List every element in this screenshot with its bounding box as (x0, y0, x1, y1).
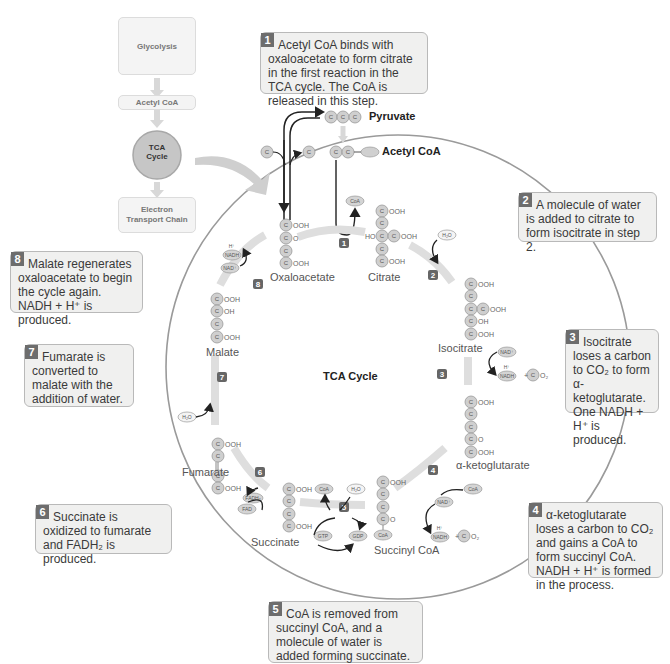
svg-text:C: C (381, 504, 386, 510)
svg-text:GDP: GDP (353, 533, 365, 539)
svg-text:OOH: OOH (389, 208, 405, 215)
svg-text:C: C (531, 372, 536, 378)
svg-text:C: C (287, 486, 292, 492)
svg-text:1: 1 (342, 239, 347, 248)
svg-text:C: C (216, 453, 221, 459)
svg-text:OH: OH (478, 318, 489, 325)
step-badge-3: 3 (566, 330, 579, 344)
svg-text:C: C (329, 114, 334, 120)
callout-step-6: 6Succinate is oxidized to fumarate and F… (35, 504, 172, 554)
svg-text:OOH: OOH (293, 222, 309, 229)
svg-text:H₂O: H₂O (442, 232, 452, 238)
svg-text:C: C (307, 149, 312, 155)
svg-text:C: C (284, 222, 289, 228)
svg-text:C: C (469, 293, 474, 299)
svg-text:C: C (469, 306, 474, 312)
step-badge-8: 8 (11, 252, 24, 266)
svg-text:2: 2 (431, 271, 436, 280)
svg-text:4: 4 (431, 466, 436, 475)
svg-text:C: C (381, 479, 386, 485)
svg-text:7: 7 (220, 373, 225, 382)
electron-transport-chain-box: Electron Transport Chain (118, 197, 196, 233)
svg-text:H⁺: H⁺ (504, 364, 511, 370)
svg-text:O: O (293, 235, 299, 242)
svg-text:C: C (284, 260, 289, 266)
svg-text:OOH: OOH (478, 331, 494, 338)
svg-text:HO: HO (365, 233, 376, 240)
svg-text:C: C (469, 331, 474, 337)
step-badge-1: 1 (261, 33, 274, 47)
svg-text:C: C (380, 233, 385, 239)
svg-text:C: C (215, 308, 220, 314)
molecule-isocitrate: Isocitrate (438, 342, 483, 354)
svg-text:OOH: OOH (225, 485, 241, 492)
svg-text:CoA: CoA (468, 486, 478, 492)
svg-text:OH: OH (224, 308, 235, 315)
molecule-alpha-ketoglutarate: α-ketoglutarate (456, 459, 530, 471)
svg-text:C: C (216, 485, 221, 491)
svg-text:H₂O: H₂O (182, 414, 192, 420)
svg-text:C: C (287, 523, 292, 529)
svg-text:C: C (346, 149, 351, 155)
molecule-oxaloacetate: Oxaloacetate (270, 271, 335, 283)
molecule-succinate: Succinate (251, 536, 299, 548)
svg-text:C: C (469, 399, 474, 405)
svg-text:C: C (216, 441, 221, 447)
svg-text:C: C (284, 235, 289, 241)
svg-text:C: C (469, 411, 474, 417)
svg-text:C: C (469, 449, 474, 455)
svg-text:OOH: OOH (224, 334, 240, 341)
svg-text:C: C (353, 114, 358, 120)
tca-cycle-overview-label: TCA Cycle (133, 143, 181, 161)
svg-text:C: C (380, 258, 385, 264)
svg-text:OOH: OOH (389, 258, 405, 265)
step-badge-5: 5 (269, 602, 282, 616)
svg-text:C: C (469, 281, 474, 287)
callout-step-1: 1Acetyl CoA binds with oxaloacetate to f… (260, 32, 428, 94)
svg-text:O₂: O₂ (471, 533, 479, 540)
acetyl-coa-overview-label: Acetyl CoA (136, 98, 179, 107)
svg-text:NADH: NADH (433, 534, 448, 540)
svg-text:C: C (392, 233, 397, 239)
svg-text:C: C (215, 296, 220, 302)
molecule-fumarate: Fumarate (182, 466, 229, 478)
svg-text:OOH: OOH (225, 441, 241, 448)
svg-text:NADH: NADH (500, 373, 515, 379)
svg-text:NAD⁺: NAD⁺ (500, 349, 514, 355)
callout-step-7: 7Fumarate is converted to malate with th… (24, 344, 134, 407)
svg-text:C: C (284, 248, 289, 254)
molecule-malate: Malate (206, 346, 239, 358)
svg-text:C: C (380, 208, 385, 214)
svg-text:CoA: CoA (350, 198, 360, 204)
callout-step-4: 4α-ketoglutarate loses a carbon to CO₂ a… (528, 502, 663, 578)
step-badge-4: 4 (529, 503, 542, 517)
svg-text:C: C (334, 149, 339, 155)
step-badge-2: 2 (519, 193, 532, 207)
svg-text:C: C (380, 246, 385, 252)
svg-text:C: C (381, 516, 386, 522)
svg-text:+: + (455, 533, 459, 540)
svg-text:OOH: OOH (296, 486, 312, 493)
svg-text:OOH: OOH (490, 306, 506, 313)
svg-text:O₂: O₂ (540, 372, 548, 379)
svg-text:C: C (469, 436, 474, 442)
svg-text:FAD: FAD (242, 506, 252, 512)
acetyl-coa-box: Acetyl CoA (118, 95, 196, 110)
svg-text:8: 8 (256, 280, 261, 289)
svg-text:3: 3 (440, 370, 445, 379)
svg-text:OOH: OOH (293, 260, 309, 267)
svg-text:C: C (380, 220, 385, 226)
svg-text:C: C (469, 318, 474, 324)
svg-text:GTP: GTP (318, 533, 329, 539)
svg-text:C: C (265, 149, 270, 155)
svg-text:O: O (390, 516, 396, 523)
step-badge-6: 6 (36, 505, 49, 519)
callout-step-8: 8Malate regenerates oxaloacetate to begi… (10, 251, 143, 313)
svg-text:H₂O: H₂O (351, 486, 361, 492)
svg-text:NAD⁺: NAD⁺ (223, 265, 237, 271)
callout-step-3: 3Isocitrate loses a carbon to CO₂ to for… (565, 329, 659, 413)
svg-text:OOH: OOH (224, 296, 240, 303)
molecule-citrate: Citrate (368, 271, 400, 283)
svg-text:H⁺: H⁺ (437, 525, 444, 531)
svg-text:OOH: OOH (296, 523, 312, 530)
